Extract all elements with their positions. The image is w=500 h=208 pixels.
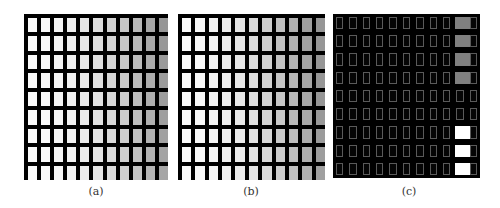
grid-cell: [67, 147, 76, 161]
grid-cell: [403, 72, 410, 84]
grid-cell: [363, 145, 370, 157]
grid-cell: [67, 73, 76, 87]
grid-cell: [93, 147, 102, 161]
grid-cell: [80, 55, 89, 69]
grid-cell: [262, 110, 271, 124]
grid-cell: [376, 108, 383, 120]
grid-cell: [222, 92, 231, 106]
grid-cell: [389, 53, 396, 65]
grid-cell: [54, 110, 63, 124]
grid-cell: [302, 92, 311, 106]
grid-cell: [222, 147, 231, 161]
grid-cell: [376, 126, 383, 138]
grid-cell: [430, 72, 437, 84]
grid-cell: [363, 35, 370, 47]
grid-cell: [54, 73, 63, 87]
grid-cell: [146, 166, 155, 180]
grid-cell: [262, 129, 271, 143]
grid-cell: [222, 129, 231, 143]
grid-cell: [41, 18, 50, 32]
grid-cell: [289, 129, 298, 143]
grid-cell: [470, 17, 477, 29]
highlight-cell-white: [455, 126, 470, 138]
grid-cell: [182, 147, 191, 161]
grid-cell: [235, 147, 244, 161]
grid-cell: [235, 129, 244, 143]
grid-cell: [249, 166, 258, 180]
grid-cell: [107, 129, 116, 143]
grid-cell: [222, 18, 231, 32]
grid-cell: [120, 18, 129, 32]
grid-cell: [456, 108, 463, 120]
grid-cell: [249, 129, 258, 143]
grid-image-c: [333, 14, 480, 178]
grid-cell: [363, 90, 370, 102]
grid-cell: [222, 166, 231, 180]
grid-cell: [235, 36, 244, 50]
grid-cell: [316, 129, 325, 143]
grid-cell: [389, 163, 396, 175]
grid-cell: [195, 147, 204, 161]
grid-cell: [289, 18, 298, 32]
grid-cell: [54, 18, 63, 32]
grid-cell: [120, 55, 129, 69]
grid-cell: [389, 108, 396, 120]
grid-cell: [249, 110, 258, 124]
grid-cell: [302, 73, 311, 87]
grid-cell: [363, 108, 370, 120]
grid-cell: [159, 110, 168, 124]
grid-cell: [389, 90, 396, 102]
grid-cell: [289, 110, 298, 124]
grid-cell: [363, 17, 370, 29]
grid-cell: [235, 166, 244, 180]
grid-cell: [133, 73, 142, 87]
grid-cell: [159, 147, 168, 161]
grid-cell: [28, 73, 37, 87]
grid-cell: [443, 90, 450, 102]
grid-cell: [363, 53, 370, 65]
grid-cell: [195, 18, 204, 32]
grid-cell: [93, 55, 102, 69]
grid-cell: [107, 36, 116, 50]
grid-cell: [316, 166, 325, 180]
grid-cell: [349, 35, 356, 47]
panel-a: [24, 14, 168, 180]
grid-cell: [262, 18, 271, 32]
grid-cell: [107, 166, 116, 180]
grid-cell: [289, 92, 298, 106]
highlight-cell-white: [455, 163, 470, 175]
grid-cell: [470, 35, 477, 47]
grid-cell: [349, 90, 356, 102]
grid-cell: [133, 147, 142, 161]
grid-cell: [389, 72, 396, 84]
grid-cell: [182, 73, 191, 87]
grid-cell: [182, 18, 191, 32]
grid-cell: [209, 166, 218, 180]
grid-cell: [249, 36, 258, 50]
grid-cell: [403, 35, 410, 47]
grid-cell: [67, 92, 76, 106]
grid-cell: [93, 129, 102, 143]
grid-cell: [159, 129, 168, 143]
grid-cell: [349, 17, 356, 29]
grid-cell: [443, 53, 450, 65]
grid-cell: [41, 129, 50, 143]
grid-cell: [28, 110, 37, 124]
grid-cell: [403, 126, 410, 138]
grid-cell: [28, 92, 37, 106]
grid-cell: [363, 126, 370, 138]
grid-cell: [416, 35, 423, 47]
grid-cell: [349, 126, 356, 138]
grid-cell: [41, 55, 50, 69]
grid-cell: [289, 147, 298, 161]
grid-cell: [276, 110, 285, 124]
grid-cell: [209, 147, 218, 161]
grid-cell: [336, 17, 343, 29]
grid-cell: [443, 108, 450, 120]
grid-cell: [389, 17, 396, 29]
grid-cell: [133, 92, 142, 106]
grid-cell: [302, 110, 311, 124]
grid-cell: [430, 145, 437, 157]
grid-cell: [41, 166, 50, 180]
grid-cell: [159, 36, 168, 50]
